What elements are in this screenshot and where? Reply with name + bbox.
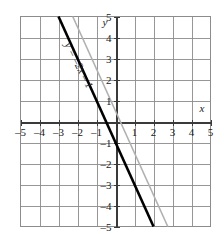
y-tick-label: –4 xyxy=(100,200,113,212)
coordinate-graph: –5–4–3–2–112345 54321–1–2–3–4–5 x y y = … xyxy=(0,0,224,234)
y-tick-label: –3 xyxy=(100,179,113,191)
y-tick-label: 4 xyxy=(106,32,112,44)
x-tick-label: 1 xyxy=(132,126,138,138)
y-tick-label: 1 xyxy=(106,95,112,107)
x-tick-label: 2 xyxy=(151,126,157,138)
x-tick-label: 4 xyxy=(189,126,195,138)
chart-background xyxy=(0,0,224,234)
x-tick-label: –2 xyxy=(71,126,83,138)
x-axis-label: x xyxy=(199,102,205,114)
y-tick-label: –5 xyxy=(100,221,113,233)
x-tick-label: –5 xyxy=(14,126,27,138)
y-axis-label: y xyxy=(102,16,108,28)
x-tick-label: –4 xyxy=(33,126,46,138)
y-tick-label: 2 xyxy=(106,74,112,86)
x-tick-label: 5 xyxy=(208,126,214,138)
x-tick-label: –3 xyxy=(52,126,65,138)
y-tick-label: –2 xyxy=(100,158,112,170)
plot-area: –5–4–3–2–112345 54321–1–2–3–4–5 x y y = … xyxy=(0,0,224,234)
y-tick-label: –1 xyxy=(100,137,112,149)
y-tick-label: 3 xyxy=(106,53,112,65)
x-tick-label: 3 xyxy=(170,126,176,138)
